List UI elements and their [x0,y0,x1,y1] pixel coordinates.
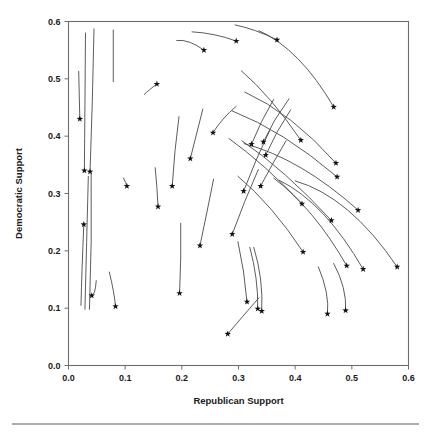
trajectory-path [244,144,358,211]
x-tick-label: 0.5 [346,373,359,383]
trajectory-path [180,223,181,293]
data-point-marker[interactable]: Republican Support: 0.414, Democratic Su… [300,249,306,255]
trajectory-path [238,242,247,302]
data-point-marker[interactable]: Republican Support: 0.339, Democratic Su… [257,183,263,189]
trajectory-path [266,110,291,155]
trajectory-path [89,173,91,309]
trajectory-path [79,71,80,119]
x-tick-label: 0.0 [62,373,75,383]
data-point-marker[interactable]: Republican Support: 0.489, Democratic Su… [342,307,348,313]
trajectory-path [213,106,236,132]
trajectory-path [232,169,258,234]
trajectory-path [144,84,156,94]
trajectory-path [84,33,85,171]
trajectory-path [81,224,84,305]
trajectory-path [295,181,397,267]
data-point-group: Republican Support: 0.02, Democratic Sup… [77,36,401,336]
y-tick-label: 0.5 [48,74,61,84]
trajectory-path [318,267,327,314]
y-tick-label: 0.1 [48,303,61,313]
x-tick-label: 0.6 [402,373,415,383]
x-tick-label: 0.2 [176,373,189,383]
scatter-chart: 0.00.10.20.30.40.50.60.00.10.20.30.40.50… [0,0,431,433]
trajectory-path [92,281,97,296]
data-point-marker[interactable]: Republican Support: 0.02, Democratic Sup… [77,116,83,122]
data-point-marker[interactable]: Republican Support: 0.183, Democratic Su… [169,183,175,189]
data-point-marker[interactable]: Republican Support: 0.028, Democratic Su… [81,167,87,173]
trajectory-path [261,141,287,186]
trajectory-path [85,176,88,309]
y-tick-label: 0.3 [48,189,61,199]
data-point-marker[interactable]: Republican Support: 0.457, Democratic Su… [324,311,330,317]
trajectory-path [228,298,259,334]
trajectory-path [90,29,94,172]
data-point-marker[interactable]: Republican Support: 0.083, Democratic Su… [112,303,118,309]
trajectory-path [177,40,204,50]
data-point-marker[interactable]: Republican Support: 0.309, Democratic Su… [240,188,246,194]
data-point-marker[interactable]: Republican Support: 0.315, Democratic Su… [244,298,250,304]
y-axis: 0.00.10.20.30.40.50.6 [48,17,69,371]
x-tick-label: 0.3 [232,373,245,383]
trajectory-path [235,25,277,40]
y-tick-label: 0.0 [48,361,61,371]
trajectory-group [79,25,397,334]
data-point-marker[interactable]: Republican Support: 0.52, Democratic Sup… [360,266,366,272]
data-point-marker[interactable]: Republican Support: 0.215, Democratic Su… [187,155,193,161]
trajectory-path [334,263,346,310]
data-point-marker[interactable]: Republican Support: 0.491, Democratic Su… [344,262,350,268]
trajectory-path [192,32,236,41]
trajectory-path [109,272,115,306]
data-point-marker[interactable]: Republican Support: 0.468, Democratic Su… [330,104,336,110]
data-point-marker[interactable]: Republican Support: 0.103, Democratic Su… [124,183,130,189]
trajectory-path [172,117,179,186]
data-point-marker[interactable]: Republican Support: 0.255, Democratic Su… [210,129,216,135]
data-point-marker[interactable]: Republican Support: 0.239, Democratic Su… [201,47,207,53]
y-tick-label: 0.2 [48,246,61,256]
trajectory-path [259,31,334,107]
data-point-marker[interactable]: Republican Support: 0.296, Democratic Su… [233,38,239,44]
figure-page: 0.00.10.20.30.40.50.60.00.10.20.30.40.50… [0,0,431,433]
data-point-marker[interactable]: Republican Support: 0.038, Democratic Su… [87,168,93,174]
y-axis-title: Democratic Support [13,147,24,239]
data-point-marker[interactable]: Republican Support: 0.368, Democratic Su… [274,36,280,42]
trajectory-path [200,179,214,246]
data-point-marker[interactable]: Republican Support: 0.232, Democratic Su… [197,242,203,248]
data-point-marker[interactable]: Republican Support: 0.196, Democratic Su… [176,290,182,296]
y-tick-label: 0.6 [48,17,61,27]
x-axis-title: Republican Support [193,395,284,406]
trajectory-path [190,109,202,158]
data-point-marker[interactable]: Republican Support: 0.58, Democratic Sup… [394,263,400,269]
data-point-marker[interactable]: Republican Support: 0.289, Democratic Su… [229,231,235,237]
y-tick-label: 0.4 [48,131,61,141]
trajectory-path [155,168,158,207]
trajectory-path [238,176,303,252]
data-point-marker[interactable]: Republican Support: 0.158, Democratic Su… [155,203,161,209]
x-tick-label: 0.1 [119,373,132,383]
trajectory-path [229,138,302,203]
x-tick-label: 0.4 [289,373,302,383]
x-axis: 0.00.10.20.30.40.50.6 [62,366,415,383]
data-point-marker[interactable]: Republican Support: 0.41, Democratic Sup… [298,137,304,143]
plot-frame [69,22,409,366]
